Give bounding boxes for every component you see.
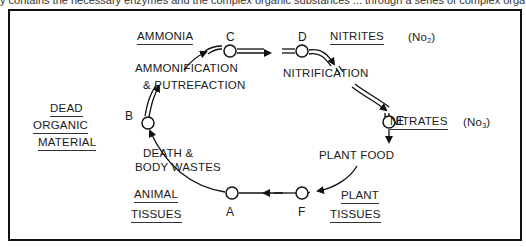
- node-b-label: B: [125, 110, 133, 122]
- node-d-label: D: [298, 31, 307, 43]
- process-body-wastes: BODY WASTES: [135, 162, 221, 174]
- stage-dead-line2: ORGANIC: [33, 120, 88, 134]
- node-f-label: F: [298, 206, 305, 218]
- node-c-circle: [224, 45, 236, 57]
- stage-plant-line1: PLANT: [341, 190, 379, 204]
- stage-animal-line1: ANIMAL: [134, 189, 178, 203]
- node-b-circle: [142, 117, 154, 129]
- stage-plant-line2: TISSUES: [330, 209, 381, 223]
- process-putrefaction: & PUTREFACTION: [143, 80, 245, 92]
- stage-nitrites: NITRITES: [330, 31, 384, 45]
- nitrates-formula: (No3): [463, 117, 490, 129]
- node-f-circle: [296, 187, 308, 199]
- nitrites-formula: (No2): [408, 32, 435, 44]
- process-death: DEATH &: [143, 148, 193, 160]
- node-c-label: C: [226, 31, 235, 43]
- node-a-circle: [226, 187, 238, 199]
- stage-dead-line1: DEAD: [50, 103, 83, 117]
- process-ammonification: AMMONIFICATION: [135, 63, 238, 75]
- stage-ammonia: AMMONIA: [137, 31, 193, 45]
- stage-dead-line3: MATERIAL: [38, 137, 96, 151]
- process-plant-food: PLANT FOOD: [319, 150, 394, 162]
- stage-animal-line2: TISSUES: [131, 209, 182, 223]
- stage-nitrates-text: NITRATES: [390, 116, 448, 130]
- node-d-circle: [296, 45, 308, 57]
- node-a-label: A: [226, 206, 234, 218]
- process-nitrification: NITRIFICATION: [283, 68, 368, 80]
